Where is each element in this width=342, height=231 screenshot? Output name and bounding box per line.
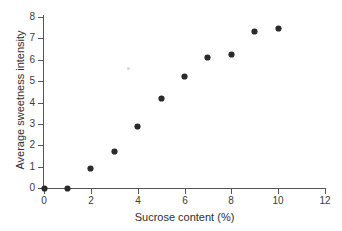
- data-point: [42, 186, 47, 191]
- x-tick: [231, 189, 232, 194]
- y-tick: [38, 124, 43, 125]
- data-point: [135, 124, 140, 129]
- scatter-plot-figure: 012345678 024681012 Sucrose content (%) …: [0, 0, 342, 231]
- plot-area: [44, 17, 325, 188]
- x-tick-label: 12: [315, 195, 335, 206]
- data-point: [65, 186, 70, 191]
- x-tick-label: 6: [175, 195, 195, 206]
- x-tick-label: 2: [81, 195, 101, 206]
- y-tick: [38, 145, 43, 146]
- x-tick-label: 8: [221, 195, 241, 206]
- x-tick: [91, 189, 92, 194]
- data-point: [229, 52, 234, 57]
- x-tick-label: 0: [34, 195, 54, 206]
- y-tick: [38, 167, 43, 168]
- data-point: [112, 149, 117, 154]
- y-tick: [38, 38, 43, 39]
- x-tick: [325, 189, 326, 194]
- y-tick: [38, 103, 43, 104]
- y-axis-title: Average sweetness intensity: [14, 10, 26, 190]
- data-point-faint: [127, 67, 130, 70]
- x-tick: [185, 189, 186, 194]
- y-tick: [38, 17, 43, 18]
- y-tick: [38, 60, 43, 61]
- x-tick: [278, 189, 279, 194]
- y-tick: [38, 81, 43, 82]
- x-tick-label: 4: [128, 195, 148, 206]
- x-tick-label: 10: [268, 195, 288, 206]
- data-point: [276, 26, 281, 31]
- x-tick: [138, 189, 139, 194]
- x-axis-title: Sucrose content (%): [44, 211, 325, 223]
- data-point: [159, 96, 164, 101]
